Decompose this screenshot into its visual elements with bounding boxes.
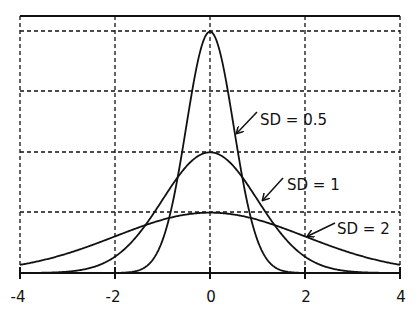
normal-distribution-chart: -4 -2 0 2 4 SD = 0.5 SD = 1 SD = 2 xyxy=(0,0,419,315)
arrow-sd-0-5 xyxy=(237,112,257,133)
tick-label-m2: -2 xyxy=(106,288,121,306)
arrow-sd-2 xyxy=(308,223,335,236)
label-sd-1: SD = 1 xyxy=(287,176,340,194)
x-tick-labels: -4 -2 0 2 4 xyxy=(11,288,406,306)
tick-label-2: 2 xyxy=(301,288,311,306)
annotations: SD = 0.5 SD = 1 SD = 2 xyxy=(260,111,390,238)
label-sd-2: SD = 2 xyxy=(337,220,390,238)
arrow-sd-1 xyxy=(263,178,283,200)
tick-label-0: 0 xyxy=(206,288,216,306)
tick-label-m4: -4 xyxy=(11,288,26,306)
tick-label-4: 4 xyxy=(396,288,406,306)
label-sd-0-5: SD = 0.5 xyxy=(260,111,327,129)
